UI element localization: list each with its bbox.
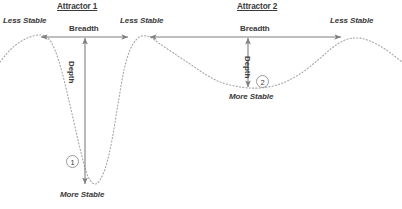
less-stable-label-left: Less Stable (3, 17, 46, 25)
more-stable-label-attractor-1: More Stable (60, 191, 104, 199)
node-marker-1: 1 (66, 155, 79, 168)
breadth-label-attractor-2: Breadth (240, 25, 270, 33)
attractor-landscape-figure: Attractor 1 Attractor 2 Less Stable Less… (0, 0, 402, 209)
potential-landscape-curve (0, 35, 402, 184)
node-marker-2: 2 (256, 75, 269, 88)
attractor-1-title: Attractor 1 (57, 3, 97, 11)
attractor-2-title: Attractor 2 (237, 3, 277, 11)
less-stable-label-middle: Less Stable (120, 17, 163, 25)
depth-label-attractor-2: Depth (243, 56, 251, 78)
breadth-label-attractor-1: Breadth (69, 25, 99, 33)
landscape-svg (0, 0, 402, 209)
more-stable-label-attractor-2: More Stable (229, 93, 273, 101)
less-stable-label-right: Less Stable (330, 17, 373, 25)
depth-label-attractor-1: Depth (67, 61, 75, 83)
